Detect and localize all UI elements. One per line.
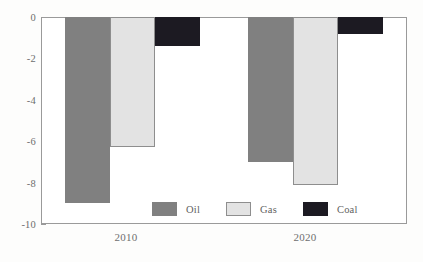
bar-coal-2020 xyxy=(338,17,383,34)
legend-swatch-oil-icon xyxy=(152,202,177,216)
bar-oil-2020 xyxy=(248,17,293,162)
bar-gas-2010 xyxy=(110,17,155,147)
y-tick-label-8: -8 xyxy=(27,178,36,189)
legend-item-coal: Coal xyxy=(303,202,358,216)
legend-label-gas: Gas xyxy=(260,204,277,215)
legend-label-coal: Coal xyxy=(337,204,358,215)
y-tick-label-2: -2 xyxy=(27,53,36,64)
y-axis-tick-major xyxy=(41,224,46,225)
x-tick-label-2010: 2010 xyxy=(114,231,137,243)
y-tick-label-10: -10 xyxy=(21,219,36,230)
bars-layer xyxy=(41,17,407,224)
y-tick-label-6: -6 xyxy=(27,136,36,147)
legend-swatch-gas-icon xyxy=(226,202,251,216)
y-tick-label-4: -4 xyxy=(27,95,36,106)
legend-item-oil: Oil xyxy=(152,202,200,216)
legend-item-gas: Gas xyxy=(226,202,277,216)
y-tick-label-0: 0 xyxy=(31,12,36,23)
bar-coal-2010 xyxy=(155,17,200,46)
y-axis-labels: 0 -2 -4 -6 -8 -10 xyxy=(0,0,36,262)
bar-oil-2010 xyxy=(65,17,110,203)
chart-legend: Oil Gas Coal xyxy=(152,202,358,216)
legend-swatch-coal-icon xyxy=(303,202,328,216)
chart-figure: 0 -2 -4 -6 -8 -10 2010 2020 Oil xyxy=(0,0,423,262)
legend-label-oil: Oil xyxy=(186,204,200,215)
x-tick-label-2020: 2020 xyxy=(293,231,316,243)
bar-gas-2020 xyxy=(293,17,338,185)
